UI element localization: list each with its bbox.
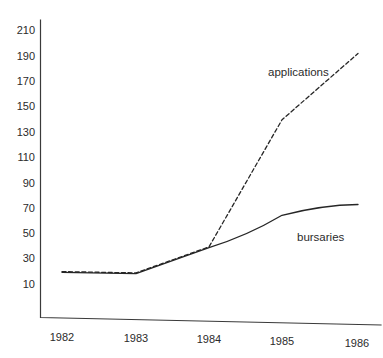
y-tick-label-150: 150 bbox=[17, 100, 35, 112]
x-tick-label-1983: 1983 bbox=[124, 332, 148, 344]
x-tick-label-1984: 1984 bbox=[197, 333, 221, 345]
y-tick-label-50: 50 bbox=[23, 227, 35, 239]
y-tick-label-70: 70 bbox=[23, 202, 35, 214]
series-label-bursaries: bursaries bbox=[297, 231, 345, 243]
y-tick-label-10: 10 bbox=[23, 278, 35, 290]
y-tick-label-170: 170 bbox=[17, 75, 35, 87]
series-label-applications: applications bbox=[268, 66, 329, 78]
y-tick-label-210: 210 bbox=[17, 24, 35, 36]
y-tick-label-30: 30 bbox=[23, 252, 35, 264]
y-tick-label-110: 110 bbox=[17, 151, 35, 163]
x-tick-label-1982: 1982 bbox=[50, 331, 74, 343]
line-chart: 210 190 170 150 130 110 90 70 50 30 10 1… bbox=[0, 0, 383, 358]
y-tick-label-190: 190 bbox=[17, 50, 35, 62]
chart-screenshot: 210 190 170 150 130 110 90 70 50 30 10 1… bbox=[0, 0, 383, 358]
x-tick-label-1986: 1986 bbox=[345, 337, 369, 349]
chart-axes bbox=[41, 20, 382, 325]
x-tick-label-1985: 1985 bbox=[270, 335, 294, 347]
y-tick-label-90: 90 bbox=[23, 177, 35, 189]
y-tick-label-130: 130 bbox=[17, 126, 35, 138]
